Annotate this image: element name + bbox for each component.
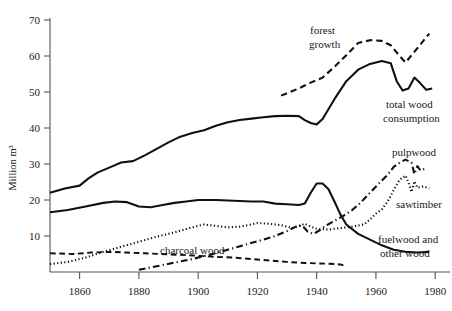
label-total-wood-line1: total wood xyxy=(386,98,433,110)
y-tick-label-30: 30 xyxy=(29,158,41,170)
y-tick-label-60: 60 xyxy=(29,50,41,62)
label-forest-growth-line2: growth xyxy=(309,38,341,50)
label-fuelwood-line2: other wood xyxy=(380,247,430,259)
label-pulpwood: pulpwood xyxy=(392,146,437,158)
label-total-wood-line2: consumption xyxy=(383,112,440,124)
y-tick-label-20: 20 xyxy=(29,194,41,206)
y-tick-labels: 10203040506070 xyxy=(29,14,41,242)
series-line-fuelwood-and-other-wood xyxy=(50,183,429,252)
label-forest-growth-line1: forest xyxy=(310,24,335,36)
y-tick-marks xyxy=(44,20,50,236)
series-annotations: forest growth total wood consumption pul… xyxy=(160,24,442,259)
x-tick-label-1900: 1900 xyxy=(187,285,210,297)
chart-svg: 10203040506070 1860188019001920194019601… xyxy=(0,0,452,311)
series-line-forest-growth xyxy=(281,34,429,96)
x-tick-marks xyxy=(80,272,436,279)
y-tick-label-70: 70 xyxy=(29,14,41,26)
x-tick-label-1860: 1860 xyxy=(69,285,92,297)
y-tick-label-40: 40 xyxy=(29,122,41,134)
label-sawtimber: sawtimber xyxy=(396,198,442,210)
label-charcoal-wood: charcoal wood xyxy=(160,244,225,256)
x-tick-label-1920: 1920 xyxy=(246,285,269,297)
x-tick-label-1960: 1960 xyxy=(365,285,388,297)
series-line-total-wood-consumption xyxy=(50,61,432,193)
x-tick-labels: 1860188019001920194019601980 xyxy=(69,285,447,297)
x-tick-label-1940: 1940 xyxy=(306,285,329,297)
series-lines xyxy=(50,34,432,270)
label-fuelwood-line1: fuelwood and xyxy=(378,233,439,245)
y-axis-title: Million m³ xyxy=(7,145,18,190)
y-tick-label-50: 50 xyxy=(29,86,41,98)
x-tick-label-1980: 1980 xyxy=(424,285,447,297)
y-tick-label-10: 10 xyxy=(29,230,41,242)
wood-consumption-chart: 10203040506070 1860188019001920194019601… xyxy=(0,0,452,311)
x-tick-label-1880: 1880 xyxy=(128,285,151,297)
